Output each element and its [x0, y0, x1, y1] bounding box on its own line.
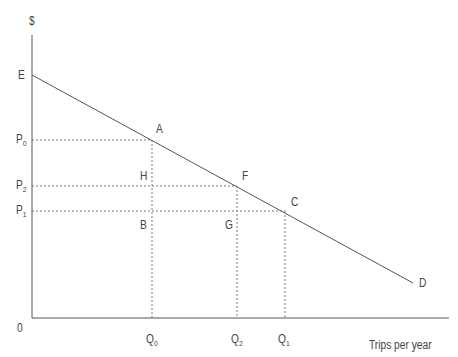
price-p0-label: P0 [16, 133, 27, 148]
demand-end-label: D [419, 277, 426, 289]
origin-label: 0 [17, 322, 23, 334]
x-axis-label: Trips per year [369, 339, 432, 351]
point-g-label: G [225, 219, 233, 231]
point-c-label: C [291, 196, 298, 208]
y-axis-label: $ [29, 15, 35, 27]
demand-curve [32, 75, 413, 283]
price-p1-label: P1 [16, 204, 27, 219]
demand-diagram [0, 0, 458, 357]
quantity-q2-label: Q2 [231, 333, 243, 348]
quantity-q1-label: Q1 [278, 333, 290, 348]
point-b-label: B [140, 219, 147, 231]
quantity-q0-label: Q0 [146, 333, 158, 348]
point-a-label: A [156, 123, 163, 135]
point-h-label: H [140, 170, 147, 182]
point-f-label: F [242, 170, 248, 182]
intercept-label: E [18, 69, 25, 81]
price-p2-label: P2 [16, 179, 27, 194]
